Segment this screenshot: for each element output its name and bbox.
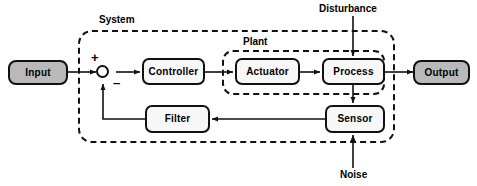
summing-junction-minus-sign: – xyxy=(113,76,120,89)
signal-wires xyxy=(0,0,477,186)
summing-junction-plus-sign: + xyxy=(91,51,99,64)
block-sensor[interactable]: Sensor xyxy=(325,105,385,133)
block-process[interactable]: Process xyxy=(322,58,385,85)
block-controller[interactable]: Controller xyxy=(142,58,205,85)
summing-junction xyxy=(96,65,109,78)
block-diagram-canvas: System Plant Disturbance Noise xyxy=(0,0,477,186)
block-output[interactable]: Output xyxy=(413,60,470,85)
block-filter[interactable]: Filter xyxy=(145,105,210,133)
block-input[interactable]: Input xyxy=(8,60,68,85)
block-actuator[interactable]: Actuator xyxy=(235,58,300,85)
